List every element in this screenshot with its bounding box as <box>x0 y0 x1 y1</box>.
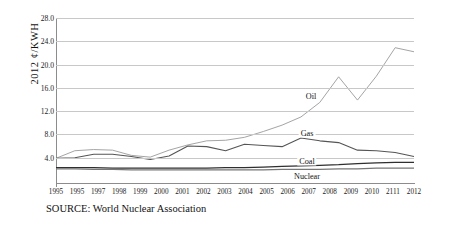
x-tick-label: 1995 <box>70 188 84 196</box>
x-tick-label: 2000 <box>154 188 168 196</box>
gridline <box>56 134 414 135</box>
series-label-gas: Gas <box>299 129 316 138</box>
x-tick-label: 1995 <box>49 188 63 196</box>
y-tick-label: 20.0 <box>24 60 54 69</box>
x-tick-label: 1999 <box>133 188 147 196</box>
gridline <box>56 41 414 42</box>
y-tick-label: 28.0 <box>24 14 54 23</box>
x-tick-label: 1998 <box>112 188 126 196</box>
x-tick-label: 2111 <box>386 188 400 196</box>
x-tick-label: 2010 <box>365 188 379 196</box>
series-label-oil: Oil <box>304 92 318 101</box>
gridline <box>56 18 414 19</box>
series-label-nuclear: Nuclear <box>292 172 322 181</box>
series-line-gas <box>56 138 414 160</box>
plot-area <box>56 18 414 181</box>
x-tick-label: 2005 <box>259 188 273 196</box>
y-axis-tick-labels: 28.024.020.016.012.08.04.0 <box>20 18 54 181</box>
x-tick-label: 2001 <box>175 188 189 196</box>
gridline <box>56 158 414 159</box>
gridline <box>56 88 414 89</box>
x-tick-label: 2007 <box>302 188 316 196</box>
x-tick-label: 2003 <box>217 188 231 196</box>
series-label-coal: Coal <box>297 157 316 166</box>
x-tick-label: 2002 <box>196 188 210 196</box>
y-tick-label: 24.0 <box>24 37 54 46</box>
x-axis-line <box>56 183 415 184</box>
x-tick-label: 2009 <box>344 188 358 196</box>
gridline <box>56 65 414 66</box>
x-tick-label: 2004 <box>238 188 252 196</box>
x-tick-label: 2006 <box>280 188 294 196</box>
x-tick-label: 1997 <box>91 188 105 196</box>
y-tick-label: 8.0 <box>24 130 54 139</box>
y-tick-label: 16.0 <box>24 83 54 92</box>
series-line-coal <box>56 162 414 168</box>
y-tick-label: 12.0 <box>24 107 54 116</box>
x-axis-tick <box>56 183 57 187</box>
source-caption: SOURCE: World Nuclear Association <box>46 203 206 214</box>
y-tick-label: 4.0 <box>24 153 54 162</box>
x-tick-label: 2008 <box>323 188 337 196</box>
x-tick-label: 2012 <box>407 188 421 196</box>
series-lines <box>56 18 414 181</box>
gridline <box>56 111 414 112</box>
chart-figure: 2012 ¢/KWH 28.024.020.016.012.08.04.0 19… <box>0 0 460 225</box>
